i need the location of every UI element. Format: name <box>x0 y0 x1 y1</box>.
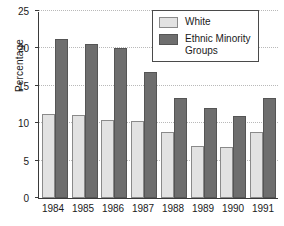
y-tick-label: 5 <box>23 155 29 166</box>
legend-swatch-white-icon <box>159 17 178 28</box>
legend-label-white: White <box>185 16 211 28</box>
bar-chart: Percentage 0510152025 198419851986198719… <box>0 0 284 226</box>
bar <box>131 121 144 198</box>
y-tick-label: 0 <box>23 193 29 204</box>
bar <box>204 108 217 198</box>
bar <box>220 147 233 198</box>
bar <box>85 44 98 198</box>
bar-group <box>101 12 127 198</box>
legend-item-ethnic-minority-groups: Ethnic Minority Groups <box>159 33 251 56</box>
bar <box>72 115 85 198</box>
bar <box>55 39 68 198</box>
x-tick-label: 1990 <box>218 203 248 214</box>
bar <box>42 114 55 198</box>
bar-group <box>42 12 68 198</box>
y-tick-mark: 15 <box>35 85 39 86</box>
bar-group <box>72 12 98 198</box>
x-tick-label: 1991 <box>248 203 278 214</box>
x-axis-labels: 19841985198619871988198919901991 <box>38 203 278 214</box>
bar <box>144 72 157 198</box>
y-tick-mark: 25 <box>35 10 39 11</box>
y-tick-mark: 10 <box>35 122 39 123</box>
x-tick-label: 1984 <box>38 203 68 214</box>
y-axis-title: Percentage <box>14 11 25 121</box>
y-tick-mark: 20 <box>35 47 39 48</box>
y-tick-label: 10 <box>18 118 29 129</box>
bar <box>161 132 174 198</box>
legend-label-ethnic-minority-groups: Ethnic Minority Groups <box>185 33 251 56</box>
y-tick-label: 15 <box>18 80 29 91</box>
legend-item-white: White <box>159 16 251 28</box>
bar <box>174 98 187 198</box>
bar <box>233 116 246 198</box>
bar <box>101 120 114 198</box>
bar <box>250 132 263 198</box>
legend-swatch-minority-icon <box>159 34 178 45</box>
x-tick-label: 1985 <box>68 203 98 214</box>
x-tick-label: 1986 <box>98 203 128 214</box>
x-tick-label: 1989 <box>188 203 218 214</box>
bar <box>191 146 204 198</box>
y-tick-mark: 0 <box>35 197 39 198</box>
y-tick-label: 25 <box>18 6 29 17</box>
x-tick-label: 1987 <box>128 203 158 214</box>
x-tick-label: 1988 <box>158 203 188 214</box>
bar <box>114 48 127 198</box>
bar <box>263 98 276 198</box>
y-tick-label: 20 <box>18 43 29 54</box>
y-tick-mark: 5 <box>35 160 39 161</box>
legend: White Ethnic Minority Groups <box>152 10 259 62</box>
